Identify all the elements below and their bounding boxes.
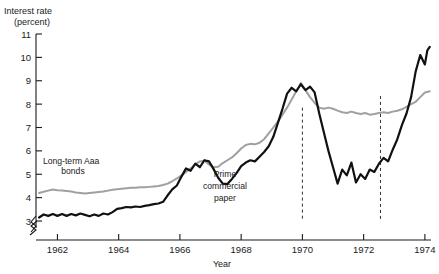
x-tick-label-1974: 1974 [414,244,435,255]
y-tick-label-5: 5 [26,169,31,180]
x-tick-label-1962: 1962 [47,244,68,255]
series-label-prime-line3: paper [214,193,236,203]
y-tick-label-11: 11 [21,29,31,40]
y-tick-label-10: 10 [20,52,31,63]
series-label-aaa-line1: Long-term Aaa [43,156,100,166]
x-tick-label-1972: 1972 [353,244,374,255]
x-axis-title: Year [213,259,231,269]
interest-rate-line-chart: 34567891011 1962196419661968197019721974… [0,0,439,274]
y-tick-label-7: 7 [26,122,31,133]
series-label-prime-line2: commercial [203,181,247,191]
x-tick-label-1966: 1966 [169,244,190,255]
y-tick-label-3: 3 [26,216,31,227]
x-axis-ticks [57,234,424,240]
x-axis-tick-labels: 1962196419661968197019721974 [47,244,436,255]
y-tick-label-8: 8 [26,99,31,110]
y-axis-title-line2: (percent) [14,17,50,27]
data-series [39,47,430,218]
y-tick-label-4: 4 [26,192,31,203]
chart-container: 34567891011 1962196419661968197019721974… [0,0,439,274]
x-tick-label-1964: 1964 [108,244,129,255]
x-tick-label-1970: 1970 [292,244,313,255]
y-axis-tick-labels: 34567891011 [20,29,31,227]
x-tick-label-1968: 1968 [231,244,252,255]
series-label-aaa-line2: bonds [61,166,84,176]
y-tick-label-6: 6 [26,145,31,156]
y-axis-title-line1: Interest rate [4,6,52,16]
series-label-prime-line1: Prime [214,169,237,179]
y-tick-label-9: 9 [26,75,31,86]
